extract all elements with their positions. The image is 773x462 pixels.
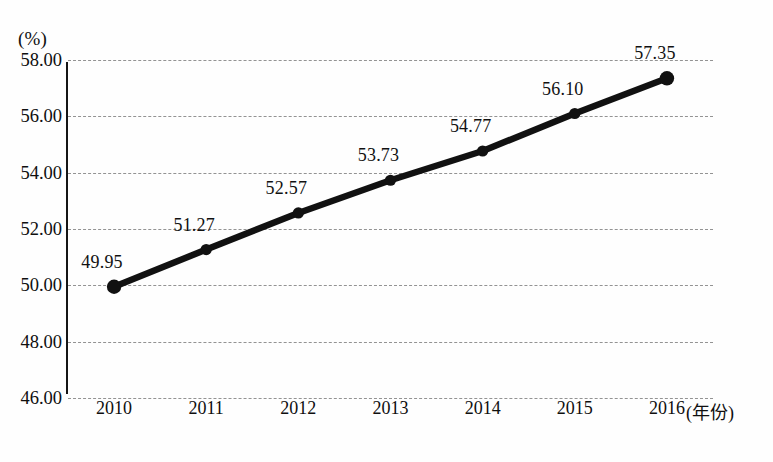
data-point-label: 57.35 <box>634 43 676 64</box>
y-axis-tick-labels: 58.0056.0054.0052.0050.0048.0046.00 <box>0 0 62 462</box>
data-point-label: 56.10 <box>542 79 584 100</box>
x-axis-tick-label: 2015 <box>535 398 615 419</box>
x-axis-tick-label: 2014 <box>443 398 523 419</box>
chart-figure: (%) 58.0056.0054.0052.0050.0048.0046.00 … <box>0 0 773 462</box>
y-axis-tick-label: 52.00 <box>0 219 62 240</box>
x-axis-tick-label: 2012 <box>258 398 338 419</box>
y-axis-tick-label: 48.00 <box>0 331 62 352</box>
y-axis-tick-label: 54.00 <box>0 162 62 183</box>
x-axis-tick-label: 2013 <box>351 398 431 419</box>
x-axis-unit-label: (年份) <box>686 398 734 424</box>
data-point-label: 53.73 <box>358 145 400 166</box>
x-axis-tick-label: 2010 <box>74 398 154 419</box>
data-point-label: 54.77 <box>450 116 492 137</box>
y-axis-tick-label: 58.00 <box>0 50 62 71</box>
x-axis-tick-label: 2011 <box>166 398 246 419</box>
data-point-label: 51.27 <box>173 215 215 236</box>
plot-area: 49.9551.2752.5753.7354.7756.1057.35 <box>68 60 713 398</box>
y-axis-tick-label: 46.00 <box>0 388 62 409</box>
y-axis-tick-label: 50.00 <box>0 275 62 296</box>
data-point-label: 49.95 <box>81 252 123 273</box>
data-point-labels: 49.9551.2752.5753.7354.7756.1057.35 <box>68 60 713 398</box>
data-point-label: 52.57 <box>266 178 308 199</box>
y-axis-tick-label: 56.00 <box>0 106 62 127</box>
